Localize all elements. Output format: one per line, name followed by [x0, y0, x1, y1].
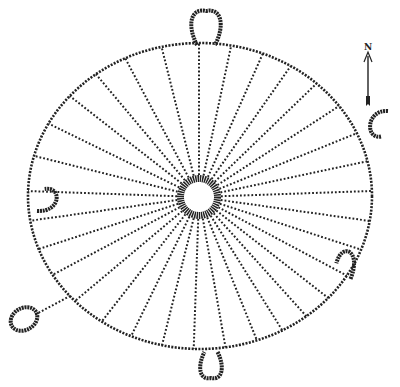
southeast-cairn-icon	[333, 249, 359, 279]
spoke	[221, 191, 372, 196]
spoke	[125, 58, 188, 177]
north-arrow-icon	[364, 52, 372, 106]
spoke	[34, 156, 178, 192]
south-cairn-icon	[200, 352, 222, 378]
spoke	[53, 207, 180, 275]
north-cairn-icon	[191, 11, 220, 45]
spoke	[217, 106, 339, 185]
east-cairn-icon	[370, 111, 388, 137]
central-cairn-hub	[181, 179, 218, 216]
medicine-wheel-diagram	[0, 0, 400, 387]
spoke	[194, 219, 199, 349]
spoke	[162, 218, 194, 345]
north-label: N	[364, 42, 372, 52]
spoke	[212, 66, 291, 179]
spoke	[219, 133, 356, 189]
spoke	[218, 207, 346, 275]
spoke	[131, 217, 189, 336]
southwest-cairn-icon	[6, 302, 41, 335]
spoke	[203, 219, 226, 348]
spoke	[216, 211, 328, 298]
spoke	[28, 191, 177, 196]
spoke	[220, 204, 361, 250]
cairn-connector	[35, 296, 70, 315]
spoke	[48, 124, 179, 188]
spoke	[221, 161, 368, 192]
spoke	[215, 83, 317, 181]
spoke	[207, 217, 257, 340]
